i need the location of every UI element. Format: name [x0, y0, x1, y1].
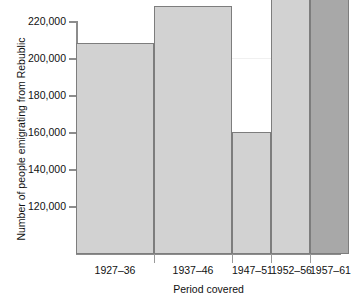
y-tick-mark-200000	[69, 58, 76, 60]
y-tick-mark-160000	[69, 132, 76, 134]
y-tick-mark-180000	[69, 95, 76, 97]
bar-1947-51	[232, 132, 271, 254]
y-tick-label-120000: 120,000	[6, 201, 66, 212]
bar-chart: Number of people emigrating from Rebubli…	[0, 0, 352, 304]
y-tick-mark-220000	[69, 21, 76, 23]
bar-1927-36	[76, 43, 154, 254]
bar-1937-46	[154, 6, 232, 254]
x-tick-label-1927-36: 1927–36	[76, 264, 154, 276]
x-tick-label-1952-56: 1952–56	[271, 264, 310, 276]
y-axis-title: Number of people emigrating from Rebubli…	[14, 13, 28, 265]
y-tick-label-180000: 180,000	[6, 90, 66, 101]
y-tick-mark-140000	[69, 169, 76, 171]
x-separator-2	[232, 254, 233, 263]
bar-1952-56	[271, 0, 310, 254]
y-tick-label-200000: 200,000	[6, 53, 66, 64]
y-tick-mark-120000	[69, 206, 76, 208]
x-tick-label-1957-61: 1957–61	[310, 264, 349, 276]
x-tick-label-1947-51: 1947–51	[232, 264, 271, 276]
x-tick-label-1937-46: 1937–46	[154, 264, 232, 276]
bar-1957-61	[310, 0, 349, 254]
x-separator-3	[271, 254, 272, 263]
x-separator-4	[310, 254, 311, 263]
x-separator-1	[154, 254, 155, 263]
y-tick-label-160000: 160,000	[6, 127, 66, 138]
y-tick-label-140000: 140,000	[6, 164, 66, 175]
y-tick-label-220000: 220,000	[6, 16, 66, 27]
x-axis-title: Period covered	[76, 283, 341, 295]
plot-area	[76, 22, 340, 254]
